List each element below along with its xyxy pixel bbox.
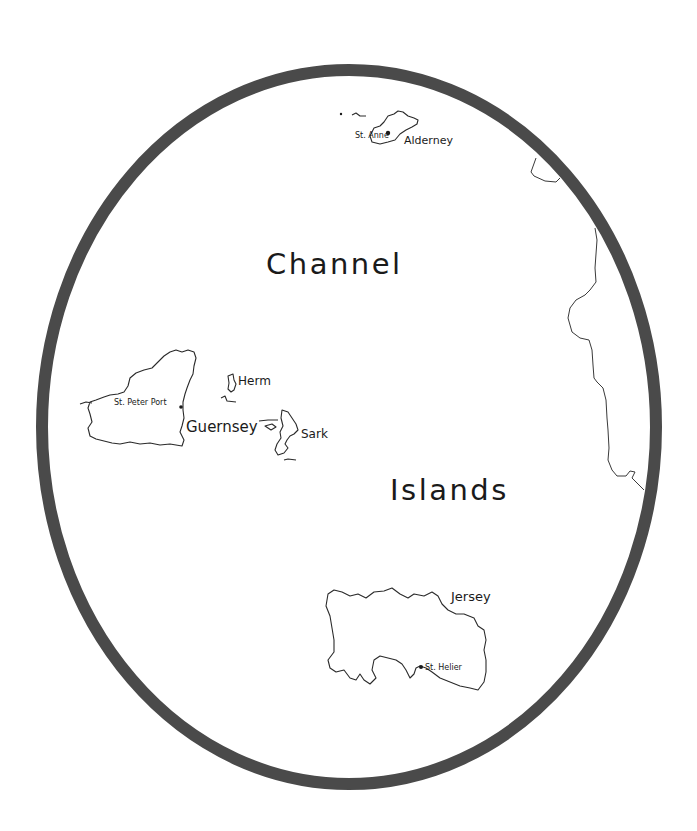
alderney-label: Alderney [404,134,453,147]
guernsey-island: St. Peter Port Guernsey [80,350,258,446]
sark-label: Sark [301,427,328,441]
alderney-town-label: St. Anne [355,131,389,140]
guernsey-town-label: St. Peter Port [114,398,167,407]
jersey-island: St. Helier Jersey [326,588,491,690]
title-channel: Channel [266,247,403,281]
guernsey-label: Guernsey [186,418,258,436]
jersey-town-label: St. Helier [425,663,463,672]
herm-island: Herm [221,374,271,402]
jersey-label: Jersey [450,589,491,604]
channel-islands-map: St. Anne Alderney St. Peter Port Guernse… [0,0,697,831]
title-islands: Islands [390,473,509,507]
alderney-island: St. Anne Alderney [340,111,454,147]
sark-island: Sark [259,410,328,460]
herm-label: Herm [238,374,271,388]
